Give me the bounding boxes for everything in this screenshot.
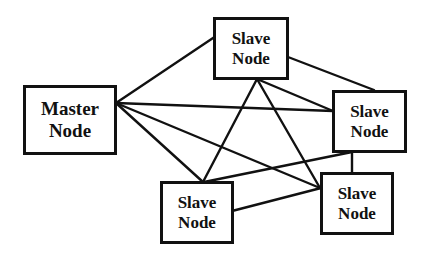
slave-node-top-line1: Slave [232, 29, 271, 49]
slave-node-top: Slave Node [213, 17, 289, 80]
edge-master-slave-right [116, 103, 333, 111]
slave-node-bottom-right-line2: Node [338, 204, 376, 224]
slave-node-bottom-left: Slave Node [160, 181, 234, 244]
slave-node-bottom-right: Slave Node [320, 172, 394, 235]
edge-slave-top-slave-bottom-right [257, 79, 320, 188]
edge-master-slave-top [116, 36, 216, 103]
edge-master-slave-bottom-left [116, 103, 203, 182]
edge-slave-top-slave-right-2 [257, 79, 333, 111]
slave-node-right-line1: Slave [350, 102, 389, 122]
master-node: Master Node [23, 85, 117, 155]
edge-master-slave-bottom-right [116, 103, 320, 188]
slave-node-bottom-right-line1: Slave [338, 184, 377, 204]
slave-node-right: Slave Node [332, 90, 407, 153]
slave-node-bottom-left-line2: Node [178, 213, 216, 233]
edge-slave-top-slave-bottom-left [203, 79, 257, 182]
edge-slave-top-slave-right [288, 57, 374, 90]
master-node-line1: Master [41, 98, 99, 120]
master-node-line2: Node [49, 120, 91, 142]
slave-node-top-line2: Node [232, 49, 270, 69]
edge-slave-bottom-left-slave-bottom-right [232, 188, 321, 211]
slave-node-bottom-left-line1: Slave [178, 193, 217, 213]
slave-node-right-line2: Node [351, 122, 389, 142]
